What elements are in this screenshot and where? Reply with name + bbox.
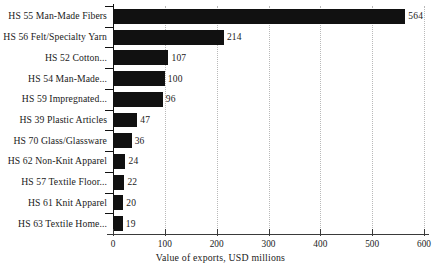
bar bbox=[113, 50, 168, 65]
bar-row: 36 bbox=[113, 133, 424, 148]
x-axis-title: Value of exports, USD millions bbox=[0, 252, 441, 263]
bar bbox=[113, 92, 163, 107]
x-axis-tick-label: 300 bbox=[262, 239, 276, 249]
bar bbox=[113, 9, 405, 24]
y-axis-tick bbox=[105, 47, 113, 48]
bar-value-label: 214 bbox=[224, 32, 242, 42]
y-axis-tick bbox=[105, 213, 113, 214]
bar-row: 100 bbox=[113, 71, 424, 86]
bar-row: 22 bbox=[113, 175, 424, 190]
plot-area: 56421410710096473624222019 bbox=[113, 6, 424, 234]
bar-value-label: 22 bbox=[124, 177, 137, 187]
y-axis-tick bbox=[105, 89, 113, 90]
bar bbox=[113, 195, 123, 210]
y-axis-tick bbox=[105, 172, 113, 173]
x-axis-tick bbox=[113, 229, 114, 236]
x-axis-tick bbox=[165, 229, 166, 236]
bar-row: 214 bbox=[113, 30, 424, 45]
bar-row: 20 bbox=[113, 195, 424, 210]
category-label: HS 54 Man-Made... bbox=[28, 74, 107, 84]
bar-value-label: 20 bbox=[123, 198, 136, 208]
bar-row: 47 bbox=[113, 113, 424, 128]
x-axis-tick-label: 600 bbox=[417, 239, 431, 249]
y-axis-tick bbox=[105, 27, 113, 28]
bar bbox=[113, 175, 124, 190]
bar-value-label: 100 bbox=[165, 74, 183, 84]
bar-row: 24 bbox=[113, 154, 424, 169]
bar-value-label: 47 bbox=[137, 115, 150, 125]
x-axis-tick-label: 0 bbox=[111, 239, 116, 249]
bar-value-label: 24 bbox=[125, 156, 138, 166]
x-axis-tick-label: 500 bbox=[365, 239, 379, 249]
x-axis-tick bbox=[217, 229, 218, 236]
bar-value-label: 36 bbox=[132, 136, 145, 146]
bars-layer: 56421410710096473624222019 bbox=[113, 6, 424, 234]
bar-chart: 56421410710096473624222019 HS 55 Man-Mad… bbox=[0, 0, 441, 269]
x-axis-tick bbox=[320, 229, 321, 236]
x-axis-tick bbox=[269, 229, 270, 236]
bar bbox=[113, 30, 224, 45]
x-axis-tick-label: 100 bbox=[158, 239, 172, 249]
x-axis-tick bbox=[424, 229, 425, 236]
y-axis-tick bbox=[105, 6, 113, 7]
category-label: HS 57 Textile Floor... bbox=[21, 177, 107, 187]
bar-row: 564 bbox=[113, 9, 424, 24]
bar-row: 107 bbox=[113, 50, 424, 65]
category-label: HS 55 Man-Made Fibers bbox=[8, 11, 107, 21]
y-axis-tick bbox=[105, 68, 113, 69]
y-axis-tick bbox=[105, 110, 113, 111]
bar-value-label: 19 bbox=[123, 219, 136, 229]
bar-value-label: 96 bbox=[163, 94, 176, 104]
category-label: HS 52 Cotton... bbox=[45, 53, 107, 63]
category-label: HS 61 Knit Apparel bbox=[28, 198, 107, 208]
bar bbox=[113, 154, 125, 169]
x-axis-tick-label: 200 bbox=[210, 239, 224, 249]
bar bbox=[113, 216, 123, 231]
bar bbox=[113, 113, 137, 128]
bar-value-label: 564 bbox=[405, 11, 423, 21]
x-axis-tick-label: 400 bbox=[313, 239, 327, 249]
category-label: HS 59 Impregnated... bbox=[22, 94, 107, 104]
category-label: HS 62 Non-Knit Apparel bbox=[8, 156, 107, 166]
bar bbox=[113, 71, 165, 86]
category-label: HS 56 Felt/Specialty Yarn bbox=[3, 32, 107, 42]
y-axis-tick bbox=[105, 130, 113, 131]
bar-value-label: 107 bbox=[168, 53, 186, 63]
x-axis-tick bbox=[372, 229, 373, 236]
gridline bbox=[424, 6, 425, 234]
category-label: HS 70 Glass/Glassware bbox=[13, 136, 107, 146]
y-axis-tick bbox=[105, 151, 113, 152]
category-label: HS 63 Textile Home... bbox=[18, 219, 107, 229]
bar bbox=[113, 133, 132, 148]
category-label: HS 39 Plastic Articles bbox=[20, 115, 108, 125]
y-axis-line bbox=[113, 4, 114, 236]
bar-row: 96 bbox=[113, 92, 424, 107]
y-axis-tick bbox=[105, 193, 113, 194]
